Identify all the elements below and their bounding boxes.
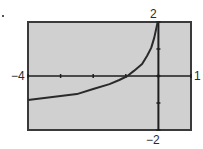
graph-plot <box>0 0 203 149</box>
corner-mark <box>2 15 4 17</box>
x-min-label: −4 <box>11 70 25 82</box>
y-min-label: −2 <box>146 134 160 146</box>
x-max-label: 1 <box>194 70 201 82</box>
y-max-label: 2 <box>150 8 157 20</box>
